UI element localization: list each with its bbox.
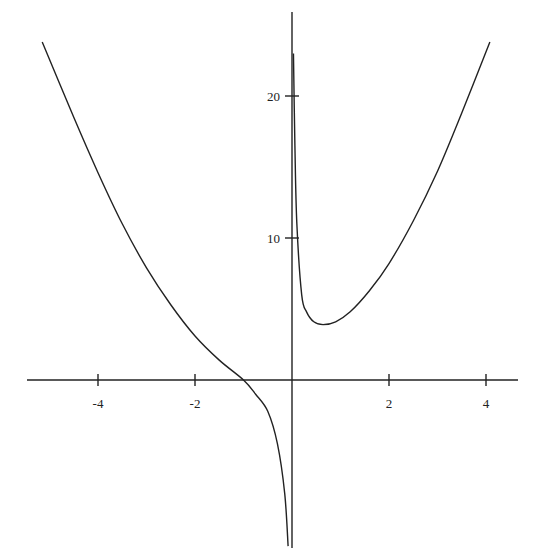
- x-tick-label: -2: [190, 396, 201, 411]
- left-branch-curve: [42, 42, 288, 546]
- x-tick-label: 2: [386, 396, 393, 411]
- x-tick-label: 4: [483, 396, 490, 411]
- right-branch-curve: [293, 42, 489, 325]
- x-tick-label: -4: [93, 396, 104, 411]
- function-plot: -4-224 1020: [0, 0, 544, 554]
- y-tick-label: 10: [267, 231, 280, 246]
- y-tick-label: 20: [267, 89, 280, 104]
